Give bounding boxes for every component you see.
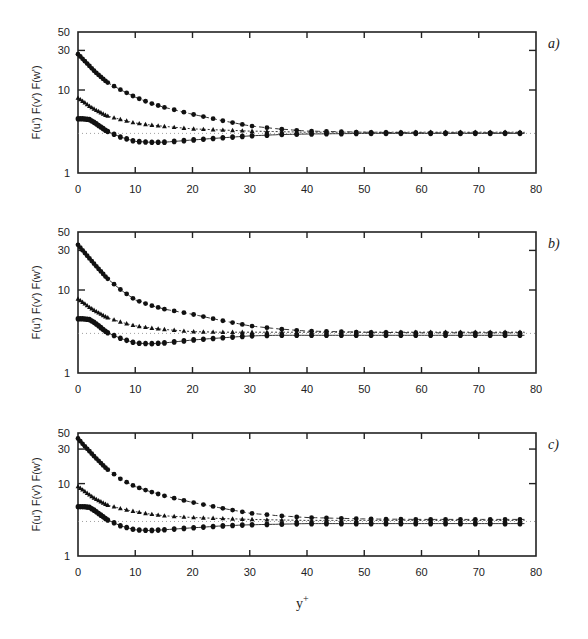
data-point xyxy=(354,131,359,137)
data-point xyxy=(124,338,129,344)
x-axis-label: y+ xyxy=(296,593,309,611)
data-point xyxy=(220,523,225,529)
data-point xyxy=(137,139,142,145)
data-point xyxy=(162,513,167,517)
data-point xyxy=(240,334,245,340)
data-point xyxy=(182,338,187,344)
data-point xyxy=(369,131,374,137)
data-point xyxy=(201,114,206,119)
panel-a: 010203040506070801103050F(u') F(v') F(w'… xyxy=(30,26,560,195)
data-point xyxy=(443,131,448,137)
data-point xyxy=(156,527,161,533)
x-tick-label: 30 xyxy=(244,566,256,578)
data-point xyxy=(443,332,448,338)
data-point xyxy=(265,333,270,339)
data-point xyxy=(428,131,433,137)
data-point xyxy=(131,339,136,345)
x-tick-label: 20 xyxy=(186,566,198,578)
series-fv xyxy=(76,95,525,134)
x-tick-label: 70 xyxy=(473,566,485,578)
data-point xyxy=(324,521,329,527)
data-point xyxy=(156,103,161,108)
data-point xyxy=(172,339,177,345)
data-point xyxy=(220,118,225,123)
y-tick-label: 1 xyxy=(64,167,70,179)
data-point xyxy=(230,523,235,529)
series-fu xyxy=(76,436,525,522)
data-point xyxy=(118,476,123,481)
data-point xyxy=(156,340,161,346)
figure: 010203040506070801103050F(u') F(v') F(w'… xyxy=(0,0,588,639)
series-line xyxy=(78,245,525,333)
data-point xyxy=(156,139,161,145)
y-tick-label: 30 xyxy=(58,244,70,256)
data-point xyxy=(354,332,359,338)
data-point xyxy=(118,117,123,121)
data-point xyxy=(162,340,167,346)
data-point xyxy=(191,112,196,117)
data-point xyxy=(182,110,187,115)
data-point xyxy=(143,301,148,306)
data-point xyxy=(294,332,299,338)
data-point xyxy=(137,96,142,101)
y-tick-label: 1 xyxy=(64,367,70,379)
x-tick-label: 20 xyxy=(186,183,198,195)
data-point xyxy=(112,504,117,508)
x-tick-label: 60 xyxy=(415,183,427,195)
data-point xyxy=(354,521,359,527)
x-tick-label: 80 xyxy=(530,566,542,578)
data-point xyxy=(201,336,206,342)
data-point xyxy=(137,340,142,346)
data-point xyxy=(112,131,117,137)
data-point xyxy=(518,131,523,137)
data-point xyxy=(220,335,225,341)
data-point xyxy=(118,134,123,140)
data-point xyxy=(279,332,284,338)
data-point xyxy=(309,131,314,137)
y-tick-label: 1 xyxy=(64,550,70,562)
data-point xyxy=(143,122,148,126)
plot-frame xyxy=(78,433,536,556)
data-point xyxy=(220,318,225,323)
data-point xyxy=(149,139,154,145)
data-point xyxy=(339,521,344,527)
data-point xyxy=(230,128,235,132)
data-point xyxy=(105,517,110,523)
series-fu xyxy=(76,52,525,135)
data-point xyxy=(211,524,216,530)
data-point xyxy=(162,493,167,498)
x-tick-label: 0 xyxy=(75,566,81,578)
x-tick-label: 60 xyxy=(415,383,427,395)
data-point xyxy=(191,312,196,317)
data-point xyxy=(265,325,270,330)
data-point xyxy=(220,135,225,141)
data-point xyxy=(124,292,129,297)
data-point xyxy=(250,124,255,129)
data-point xyxy=(230,516,235,520)
data-point xyxy=(162,307,167,312)
data-point xyxy=(458,521,463,527)
data-point xyxy=(294,521,299,527)
data-point xyxy=(398,332,403,338)
data-point xyxy=(428,332,433,338)
data-point xyxy=(503,131,508,137)
data-point xyxy=(172,139,177,145)
data-point xyxy=(182,138,187,144)
x-tick-label: 70 xyxy=(473,183,485,195)
data-point xyxy=(105,80,110,85)
data-point xyxy=(162,124,167,128)
x-tick-label: 50 xyxy=(358,383,370,395)
data-point xyxy=(182,526,187,532)
data-point xyxy=(413,131,418,137)
data-point xyxy=(240,522,245,528)
data-point xyxy=(250,133,255,139)
data-point xyxy=(143,488,148,493)
data-point xyxy=(162,327,167,331)
data-point xyxy=(413,521,418,527)
data-point xyxy=(112,115,117,119)
data-point xyxy=(369,521,374,527)
data-point xyxy=(118,87,123,92)
data-point xyxy=(294,131,299,137)
data-point xyxy=(369,332,374,338)
data-point xyxy=(384,131,389,137)
